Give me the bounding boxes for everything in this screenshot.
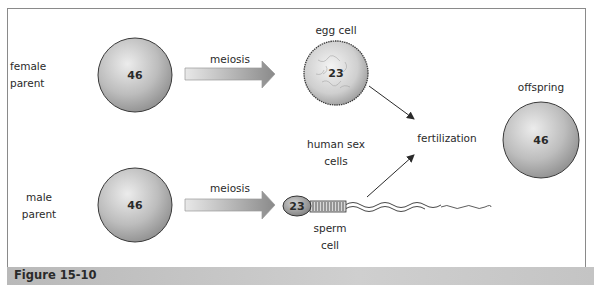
male-parent-label: male parent bbox=[14, 189, 64, 223]
egg-cell-label: egg cell bbox=[306, 22, 366, 39]
female-parent-label: female parent bbox=[10, 58, 68, 92]
male-chromosome-count: 46 bbox=[127, 199, 143, 212]
sperm-cell-label-line1: sperm bbox=[305, 220, 355, 237]
sperm-chromosome-count: 23 bbox=[289, 200, 304, 213]
human-sex-cells-line2: cells bbox=[296, 153, 376, 170]
sperm-cell-label: sperm cell bbox=[305, 220, 355, 254]
sperm-cell-label-line2: cell bbox=[305, 237, 355, 254]
male-parent-cell: 46 bbox=[98, 168, 172, 242]
offspring-label: offspring bbox=[505, 79, 577, 96]
egg-chromosome-count: 23 bbox=[328, 67, 343, 80]
offspring-cell: 46 bbox=[503, 102, 579, 178]
fertilization-label: fertilization bbox=[402, 130, 492, 147]
male-parent-label-line2: parent bbox=[14, 206, 64, 223]
figure-caption-bar: Figure 15-10 bbox=[7, 267, 594, 285]
egg-to-fertilization-arrow-icon bbox=[369, 86, 414, 119]
female-parent-cell: 46 bbox=[98, 38, 172, 112]
meiosis-label-top: meiosis bbox=[200, 51, 260, 68]
human-sex-cells-line1: human sex bbox=[296, 136, 376, 153]
egg-cell: 23 bbox=[304, 41, 368, 105]
meiosis-label-bottom: meiosis bbox=[200, 180, 260, 197]
female-parent-label-line2: parent bbox=[10, 75, 68, 92]
female-parent-label-line1: female bbox=[10, 58, 68, 75]
offspring-chromosome-count: 46 bbox=[533, 134, 549, 147]
female-chromosome-count: 46 bbox=[127, 69, 143, 82]
sperm-cell: 23 bbox=[283, 196, 491, 216]
male-parent-label-line1: male bbox=[14, 189, 64, 206]
figure-caption: Figure 15-10 bbox=[14, 268, 96, 282]
human-sex-cells-label: human sex cells bbox=[296, 136, 376, 170]
